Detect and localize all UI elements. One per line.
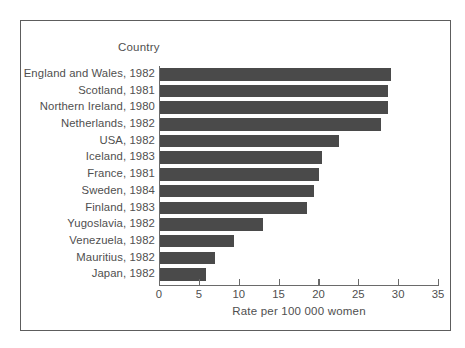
bar-category-label: England and Wales, 1982 — [24, 67, 155, 79]
value-axis-tick — [199, 279, 200, 285]
chart-figure: Country England and Wales, 1982Scotland,… — [0, 0, 465, 348]
bar — [160, 101, 388, 114]
value-axis-tick — [438, 279, 439, 285]
value-axis-tick-label: 35 — [432, 288, 445, 300]
value-axis-tick-label: 30 — [392, 288, 405, 300]
bar-category-label: Yugoslavia, 1982 — [67, 217, 155, 229]
bar-row: Finland, 1983 — [0, 200, 465, 217]
value-axis-tick-label: 0 — [156, 288, 162, 300]
bar-row: Venezuela, 1982 — [0, 233, 465, 250]
bar-category-label: Sweden, 1984 — [82, 184, 155, 196]
bar-row: Netherlands, 1982 — [0, 116, 465, 133]
bar-row: Yugoslavia, 1982 — [0, 216, 465, 233]
bar-row: USA, 1982 — [0, 133, 465, 150]
bar — [160, 252, 215, 265]
bar-category-label: Japan, 1982 — [92, 267, 155, 279]
bar — [160, 151, 322, 164]
category-axis-title: Country — [118, 41, 160, 53]
bar — [160, 185, 314, 198]
bar-chart-plot: Country England and Wales, 1982Scotland,… — [0, 0, 465, 348]
bar-category-label: Mauritius, 1982 — [76, 251, 155, 263]
value-axis-tick — [279, 279, 280, 285]
bar-category-label: Scotland, 1981 — [78, 84, 155, 96]
category-axis-line — [159, 66, 160, 285]
value-axis-tick-label: 10 — [232, 288, 245, 300]
bar-row: France, 1981 — [0, 166, 465, 183]
bar — [160, 202, 307, 215]
bar — [160, 218, 263, 231]
value-axis-line — [159, 285, 439, 286]
value-axis-title: Rate per 100 000 women — [159, 305, 439, 317]
bar-category-label: France, 1981 — [87, 167, 155, 179]
bar-row: Northern Ireland, 1980 — [0, 99, 465, 116]
bar-category-label: Finland, 1983 — [85, 201, 155, 213]
value-axis-tick — [398, 279, 399, 285]
value-axis-tick-label: 20 — [312, 288, 325, 300]
value-axis-tick — [239, 279, 240, 285]
bar — [160, 235, 234, 248]
value-axis-tick — [318, 279, 319, 285]
value-axis-tick — [358, 279, 359, 285]
value-axis-tick — [159, 279, 160, 285]
bar-row: Scotland, 1981 — [0, 83, 465, 100]
bar-row: England and Wales, 1982 — [0, 66, 465, 83]
bar-row: Iceland, 1983 — [0, 149, 465, 166]
bar-category-label: USA, 1982 — [99, 134, 155, 146]
bar-rows: England and Wales, 1982Scotland, 1981Nor… — [0, 66, 465, 283]
bar-row: Mauritius, 1982 — [0, 250, 465, 267]
bar-category-label: Venezuela, 1982 — [69, 234, 155, 246]
bar-row: Sweden, 1984 — [0, 183, 465, 200]
bar — [160, 168, 319, 181]
bar — [160, 118, 381, 131]
bar-row: Japan, 1982 — [0, 266, 465, 283]
value-axis-tick-label: 5 — [196, 288, 202, 300]
bar-category-label: Northern Ireland, 1980 — [40, 100, 155, 112]
bar — [160, 135, 339, 148]
bar — [160, 68, 391, 81]
bar-category-label: Iceland, 1983 — [86, 150, 155, 162]
value-axis-tick-label: 25 — [352, 288, 365, 300]
bar — [160, 85, 388, 98]
bar-category-label: Netherlands, 1982 — [61, 117, 155, 129]
value-axis-tick-label: 15 — [272, 288, 285, 300]
